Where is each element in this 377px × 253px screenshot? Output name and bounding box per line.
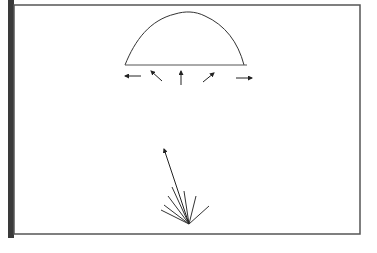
dome-arrows-group [125, 71, 252, 85]
fan-ray [189, 206, 209, 224]
diagram-frame [14, 5, 360, 234]
dome-curve [125, 12, 244, 65]
long-arrow-icon [164, 149, 189, 224]
dome-group [125, 12, 247, 65]
diagram-canvas [0, 0, 377, 253]
fan-group [161, 149, 209, 224]
arrow-up-left-icon [151, 71, 162, 81]
arrow-up-right-icon [203, 73, 214, 82]
fan-ray [189, 196, 196, 224]
